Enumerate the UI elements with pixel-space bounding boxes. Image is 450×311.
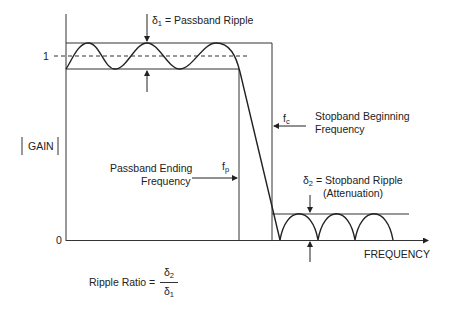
- fp-label-line2: Frequency: [141, 175, 191, 188]
- y-axis-label: GAIN: [28, 140, 54, 153]
- delta1-label: δ1 = Passband Ripple: [152, 14, 253, 30]
- ripple-ratio-fraction: δ2 δ1: [160, 266, 178, 299]
- fraction-bar: [160, 282, 178, 283]
- fp-symbol: fp: [222, 160, 229, 176]
- fc-symbol: fc: [283, 112, 290, 128]
- stopband-response-curve: [280, 214, 393, 240]
- ripple-ratio-numerator: δ2: [164, 266, 174, 280]
- ripple-ratio-denominator: δ1: [164, 285, 174, 299]
- filter-response-diagram: [0, 0, 450, 311]
- x-axis-label: FREQUENCY: [364, 248, 430, 261]
- fc-label-line2: Frequency: [315, 123, 365, 136]
- y-tick-zero: 0: [56, 234, 62, 247]
- y-tick-one: 1: [43, 50, 49, 63]
- ripple-ratio-label: Ripple Ratio =: [89, 276, 155, 289]
- delta2-label-line2: (Attenuation): [323, 187, 383, 200]
- passband-response-curve: [66, 43, 280, 240]
- fc-label-line1: Stopband Beginning: [315, 110, 410, 123]
- fp-label-line1: Passband Ending: [110, 162, 192, 175]
